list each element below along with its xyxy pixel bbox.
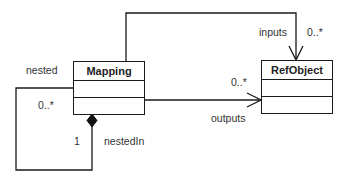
- composition-diamond-icon: [87, 114, 97, 127]
- inputs-role-label: inputs: [259, 26, 287, 38]
- nested-role-label: nested: [26, 64, 58, 76]
- class-mapping[interactable]: Mapping: [73, 61, 145, 115]
- class-mapping-name: Mapping: [74, 62, 144, 81]
- inputs-multiplicity-label: 0..*: [307, 26, 323, 38]
- class-refobject[interactable]: RefObject: [261, 60, 333, 114]
- nested-multiplicity-label: 0..*: [38, 99, 54, 111]
- class-refobject-attributes: [262, 80, 332, 97]
- nestedin-multiplicity-label: 1: [74, 135, 80, 147]
- class-mapping-operations: [74, 98, 144, 113]
- outputs-multiplicity-label: 0..*: [231, 76, 247, 88]
- nestedin-role-label: nestedIn: [104, 135, 144, 147]
- outputs-role-label: outputs: [211, 112, 245, 124]
- class-refobject-operations: [262, 97, 332, 112]
- class-refobject-name: RefObject: [262, 61, 332, 80]
- class-mapping-attributes: [74, 81, 144, 98]
